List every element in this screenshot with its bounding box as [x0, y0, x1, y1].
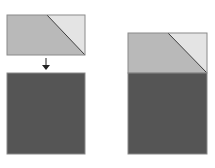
right-dark-square — [128, 73, 207, 154]
diagram-canvas — [0, 0, 215, 168]
left-panel — [7, 15, 85, 154]
right-split-rectangle — [128, 33, 207, 73]
right-panel — [128, 33, 207, 154]
left-dark-square — [7, 73, 85, 154]
down-arrow-icon — [42, 58, 50, 70]
left-split-rectangle — [7, 15, 85, 55]
